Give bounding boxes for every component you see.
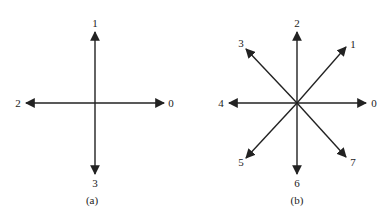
caption-a: (a): [86, 194, 99, 207]
label-0: 0: [371, 97, 377, 109]
caption-b: (b): [291, 194, 304, 207]
label-4: 4: [218, 97, 224, 109]
label-6: 6: [294, 177, 300, 189]
arrow-sw: [246, 103, 297, 158]
label-5: 5: [238, 156, 244, 168]
direction-diagrams: 1 3 2 0 (a) 2 1 3 4 0 5 7 6 (b): [0, 0, 391, 220]
label-1: 1: [92, 17, 98, 29]
label-2: 2: [15, 97, 21, 109]
label-2: 2: [294, 17, 300, 29]
label-3: 3: [92, 177, 98, 189]
label-0: 0: [168, 97, 174, 109]
label-7: 7: [350, 156, 356, 168]
arrow-se: [297, 103, 346, 157]
label-3: 3: [238, 37, 244, 49]
figure-b-8-directions: 2 1 3 4 0 5 7 6 (b): [218, 17, 377, 207]
arrow-nw: [246, 49, 297, 103]
label-1: 1: [350, 38, 356, 50]
figure-a-4-directions: 1 3 2 0 (a): [15, 17, 174, 207]
arrow-ne: [297, 47, 346, 103]
